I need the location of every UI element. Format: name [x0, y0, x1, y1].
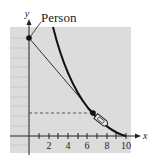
x-axis-label: x: [142, 130, 148, 141]
boat-point: [90, 110, 96, 116]
x-tick-label: 6: [85, 140, 90, 151]
y-axis-arrow-icon: [27, 19, 32, 25]
x-tick-label: 8: [105, 140, 110, 151]
x-tick-label: 10: [121, 140, 131, 151]
tractrix-diagram: 2 4 6 8 10 x y Person: [0, 0, 156, 162]
x-axis-arrow-icon: [135, 134, 141, 139]
person-point: [26, 35, 32, 41]
x-tick-label: 4: [66, 140, 71, 151]
x-tick-label: 2: [47, 140, 52, 151]
person-label: Person: [41, 10, 77, 25]
shaded-region: [10, 27, 131, 153]
y-axis-label: y: [24, 8, 30, 19]
